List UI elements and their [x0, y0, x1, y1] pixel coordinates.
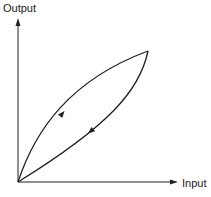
lower-curve [18, 51, 148, 182]
upper-curve [18, 51, 148, 182]
x-axis-arrow-icon [170, 180, 178, 185]
x-axis [18, 180, 178, 185]
y-axis-arrow-icon [16, 18, 21, 26]
hysteresis-diagram [0, 0, 211, 197]
upward-arrow-icon [58, 109, 67, 118]
y-axis [16, 18, 21, 182]
